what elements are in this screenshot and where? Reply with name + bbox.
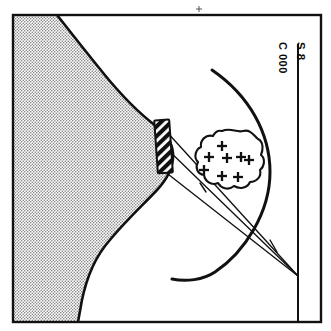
transducer-probe: [154, 120, 173, 174]
sector-label: S 8: [295, 42, 307, 61]
scan-image-canvas: C 000 S 8: [0, 0, 331, 331]
channel-label: C 000: [277, 42, 288, 74]
